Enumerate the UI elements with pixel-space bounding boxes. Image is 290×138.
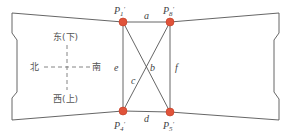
point-label-p8: P8′ (162, 5, 175, 18)
point-label-p1: P1′ (113, 5, 126, 18)
edge-label-b: b (150, 62, 155, 73)
right-outline (170, 13, 279, 120)
edge-d (123, 111, 170, 112)
point-label-p4: P4′ (113, 120, 126, 133)
compass-east-label: 东(下) (53, 31, 78, 42)
point-label-p5: P5′ (162, 120, 175, 133)
point-p8 (166, 18, 174, 26)
edge-label-a: a (144, 10, 149, 21)
point-p1 (119, 18, 127, 26)
compass-west-label: 西(上) (53, 94, 78, 104)
compass-north-label: 北 (30, 62, 39, 72)
compass-south-label: 南 (92, 61, 101, 72)
structure-diagram: 东(下) 西(上) 北 南 a b c d e f P1′ P8′ P4′ P5… (0, 0, 290, 138)
edge-label-c: c (131, 75, 136, 86)
edge-label-e: e (114, 62, 119, 73)
point-p4 (119, 107, 127, 115)
edge-label-d: d (144, 113, 150, 124)
edge-label-f: f (175, 62, 179, 73)
point-p5 (166, 108, 174, 116)
